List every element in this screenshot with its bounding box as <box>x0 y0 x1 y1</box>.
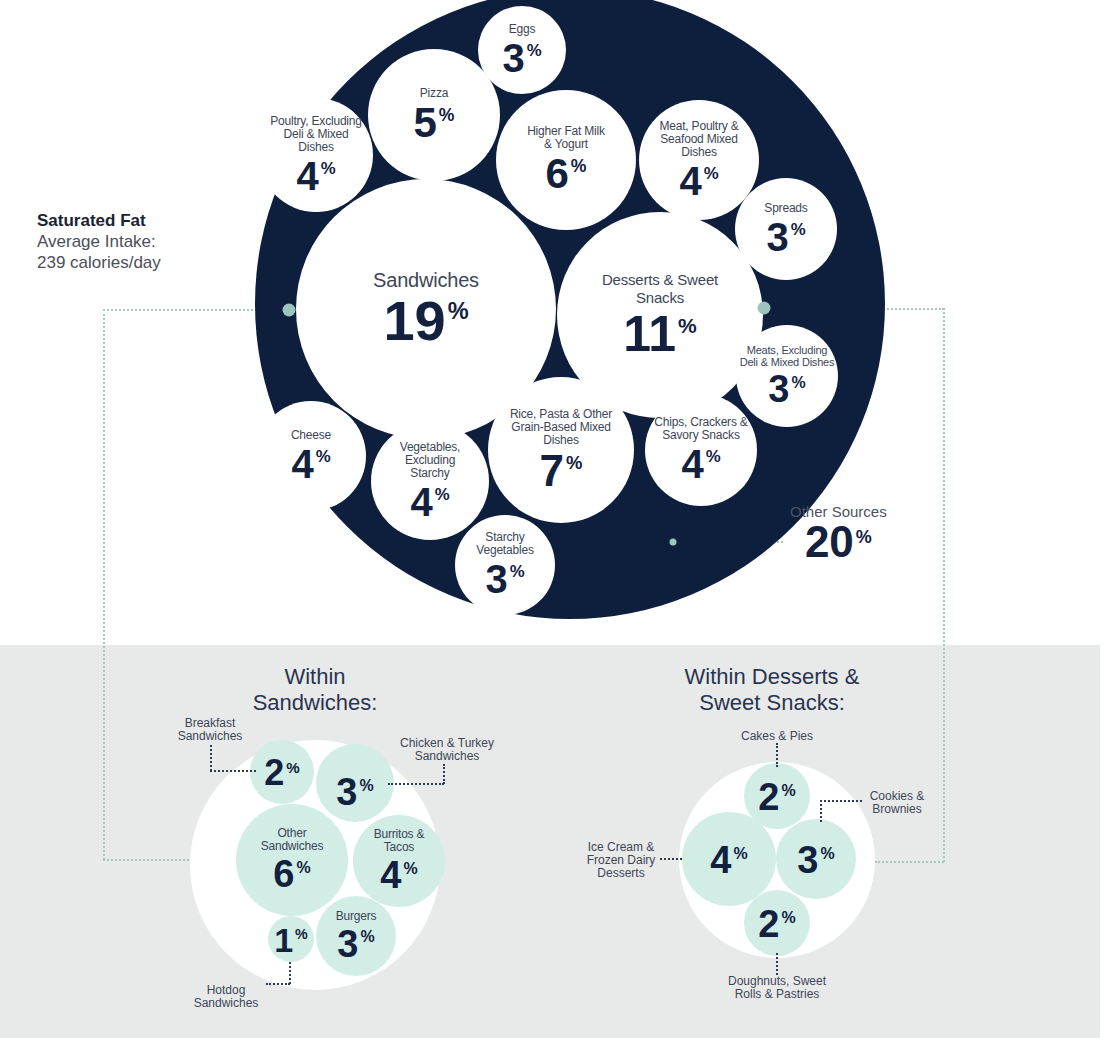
connector-line <box>103 309 105 860</box>
sub-bubble-burritos: Burritos & Tacos 4% <box>353 815 445 907</box>
other-sources-connector-dot <box>670 539 677 546</box>
label-doughnuts: Doughnuts, Sweet Rolls & Pastries <box>727 975 827 1001</box>
bubble-cheese: Cheese 4% <box>256 401 366 511</box>
leader-line <box>820 800 822 822</box>
connector-line <box>875 861 944 863</box>
desserts-connector-dot <box>758 302 771 315</box>
chart-title: Saturated Fat <box>37 210 161 231</box>
chart-intro: Saturated Fat Average Intake: 239 calori… <box>37 210 161 273</box>
bubble-rice: Rice, Pasta & Other Grain-Based Mixed Di… <box>488 377 634 523</box>
connector-line <box>103 859 193 861</box>
label-icecream: Ice Cream & Frozen Dairy Desserts <box>577 841 665 880</box>
sub-bubble-icecream: 4% <box>682 812 776 906</box>
label-hotdog: Hotdog Sandwiches <box>186 984 266 1010</box>
leader-line <box>443 764 445 784</box>
bubble-pizza: Pizza 5% <box>368 49 500 181</box>
sub-bubble-doughnuts: 2% <box>744 890 810 956</box>
bubble-milk: Higher Fat Milk & Yogurt 6% <box>496 90 636 230</box>
bubble-meat-mixed: Meat, Poultry & Seafood Mixed Dishes 4% <box>639 100 759 220</box>
within-sandwiches-title: Within Sandwiches: <box>215 664 415 716</box>
bubble-eggs: Eggs 3% <box>478 6 566 94</box>
intake-label: Average Intake: <box>37 231 161 252</box>
bubble-starchy: Starchy Vegetables 3% <box>455 515 555 615</box>
within-desserts-title: Within Desserts & Sweet Snacks: <box>660 664 884 716</box>
label-cookies: Cookies & Brownies <box>862 790 932 816</box>
leader-line <box>388 783 444 785</box>
sub-bubble-burgers: Burgers 3% <box>316 896 396 976</box>
leader-line <box>210 770 256 772</box>
leader-line <box>210 745 212 771</box>
sub-bubble-chicken: 3% <box>316 744 394 822</box>
leader-line <box>776 743 778 767</box>
label-chicken: Chicken & Turkey Sandwiches <box>387 737 507 763</box>
leader-line <box>820 800 862 802</box>
bubble-poultry: Poultry, Excluding Deli & Mixed Dishes 4… <box>259 98 373 212</box>
leader-line <box>266 983 290 985</box>
leader-line <box>776 953 778 975</box>
label-breakfast: Breakfast Sandwiches <box>170 717 250 743</box>
sub-bubble-cookies: 3% <box>776 819 856 899</box>
other-sources-label: Other Sources 20% <box>790 503 887 564</box>
connector-line <box>943 308 945 862</box>
leader-line <box>289 962 291 984</box>
bubble-meats: Meats, Excluding Deli & Mixed Dishes 3% <box>736 325 838 427</box>
bubble-vegetables: Vegetables, Excluding Starchy 4% <box>371 422 489 540</box>
label-cakes: Cakes & Pies <box>727 730 827 743</box>
bubble-chips: Chips, Crackers & Savory Snacks 4% <box>645 394 757 506</box>
sub-bubble-breakfast: 2% <box>250 740 314 804</box>
leader-line <box>660 858 682 860</box>
sub-bubble-hotdog: 1% <box>268 916 314 962</box>
breakdown-panel <box>0 645 1100 1038</box>
intake-value: 239 calories/day <box>37 252 161 273</box>
sandwiches-connector-dot <box>283 304 296 317</box>
sub-bubble-other: Other Sandwiches 6% <box>236 804 348 916</box>
